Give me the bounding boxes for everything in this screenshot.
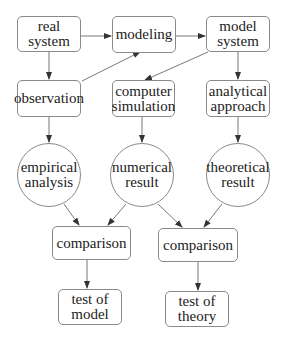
node-label: comparison xyxy=(163,238,233,253)
edge-empirical-analysis-to-comparison-left xyxy=(64,204,79,225)
node-label: test of model xyxy=(71,292,109,322)
edge-theoretical-result-to-comparison-right xyxy=(204,204,222,227)
edge-numerical-result-to-comparison-right xyxy=(158,204,182,227)
node-label: real system xyxy=(28,19,70,49)
node-label: numerical result xyxy=(112,160,172,190)
node-comparison-right: comparison xyxy=(158,228,238,262)
node-test-of-theory: test of theory xyxy=(165,291,229,327)
node-label: observation xyxy=(14,91,84,106)
node-model-system: model system xyxy=(206,16,270,52)
node-label: analytical approach xyxy=(209,84,267,114)
edge-numerical-result-to-comparison-left xyxy=(108,204,126,225)
node-label: test of theory xyxy=(178,294,216,324)
node-test-of-model: test of model xyxy=(58,289,122,325)
node-real-system: real system xyxy=(17,16,81,52)
node-comparison-left: comparison xyxy=(52,226,131,260)
node-theoretical-result: theoretical result xyxy=(206,143,270,207)
node-label: model system xyxy=(217,19,259,49)
node-observation: observation xyxy=(17,80,81,117)
node-label: empirical analysis xyxy=(21,160,78,190)
node-label: modeling xyxy=(116,27,173,42)
node-analytical-approach: analytical approach xyxy=(206,80,270,117)
node-computer-simulation: computer simulation xyxy=(112,80,175,117)
node-label: computer simulation xyxy=(112,84,175,114)
node-label: theoretical result xyxy=(206,160,269,190)
edge-observation-to-modeling xyxy=(82,52,140,81)
edge-model-system-to-computer-simulation xyxy=(145,52,208,80)
node-modeling: modeling xyxy=(112,16,176,53)
node-numerical-result: numerical result xyxy=(110,143,174,207)
node-label: comparison xyxy=(57,236,127,251)
node-empirical-analysis: empirical analysis xyxy=(17,143,81,207)
